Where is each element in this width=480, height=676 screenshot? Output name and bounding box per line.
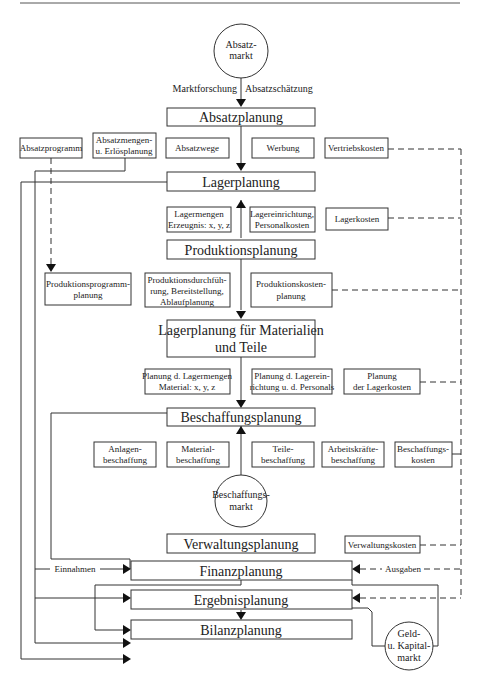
teilebeschaffung-label-line1: Teile- (273, 444, 294, 454)
lagerplanung-label: Lagerplanung (202, 175, 280, 190)
lagereinrichtung-personal-label-line1: Planung d. Lagerein- (254, 371, 330, 381)
box-absatzprogramm: Absatzprogramm (20, 138, 82, 158)
edge-label-absatzschaetzung: Absatzschätzung (245, 83, 313, 94)
box-lagermengen: Lagermengen Erzeugnis: x, y, z (167, 207, 231, 232)
produktionskosten-label-line1: Produktionskosten- (256, 279, 326, 289)
connector-lager-bilanz (21, 182, 167, 659)
box-finanzplanung: Finanzplanung (131, 561, 352, 580)
geldmarkt-label-line2: u. Kapital- (388, 640, 431, 651)
beschaffungskosten-label-line2: kosten (411, 455, 435, 465)
arrow-down-icon (236, 612, 246, 620)
arrow-down-icon (236, 400, 246, 408)
box-lagereinrichtung: Lagereinrichtung, Personalkosten (250, 207, 315, 232)
edge-label-einnahmen: Einnahmen (55, 564, 96, 574)
produktionsdurchfuehrung-label-line2: rung, Bereitstellung, (150, 286, 224, 296)
edge-label-marktforschung: Marktforschung (173, 83, 237, 94)
teilebeschaffung-label-line2: beschaffung (261, 455, 305, 465)
box-produktionskosten: Produktionskosten- planung (251, 273, 332, 307)
box-bilanzplanung: Bilanzplanung (131, 620, 352, 639)
box-werbung: Werbung (252, 138, 314, 158)
anlagenbeschaffung-label-line1: Anlagen- (108, 444, 142, 454)
vertriebskosten-label: Vertriebskosten (328, 143, 384, 153)
box-beschaffungskosten: Beschaffungs- kosten (395, 442, 452, 467)
lagermengen-label-line2: Erzeugnis: x, y, z (168, 220, 230, 230)
lagerkosten-planung-label-line2: der Lagerkosten (353, 382, 412, 392)
verwaltungsplanung-label: Verwaltungsplanung (183, 537, 298, 552)
lagerkosten-label: Lagerkosten (335, 214, 380, 224)
arrow-down-icon (236, 99, 246, 107)
absatzplanung-label: Absatzplanung (199, 110, 283, 125)
arrow-right-icon (123, 654, 131, 664)
arrow-up-icon (236, 200, 246, 208)
box-verwaltungsplanung: Verwaltungsplanung (167, 534, 315, 553)
absatzmengen-label-line1: Absatzmengen- (96, 135, 152, 145)
lagermengen-material-label-line1: Planung d. Lagermengen (142, 371, 233, 381)
box-lagereinrichtung-personal: Planung d. Lagerein- richtung u. d. Pers… (250, 369, 335, 394)
lagerkosten-planung-label-line1: Planung (367, 371, 397, 381)
box-vertriebskosten: Vertriebskosten (325, 138, 388, 158)
box-arbeitskraeftebeschaffung: Arbeitskräfte- beschaffung (322, 442, 384, 467)
bilanzplanung-label: Bilanzplanung (200, 623, 282, 638)
box-produktionsplanung: Produktionsplanung (167, 240, 315, 259)
absatzwege-label: Absatzwege (175, 143, 219, 153)
arrow-right-icon (123, 593, 131, 603)
connector-beschaffung-finanz (51, 413, 167, 569)
werbung-label: Werbung (267, 143, 300, 153)
produktionsprogramm-label-line1: Produktionsprogramm- (46, 279, 130, 289)
beschaffungsplanung-label: Beschaffungsplanung (180, 410, 301, 425)
box-lagerplanung-material: Lagerplanung für Materialien und Teile (158, 320, 324, 357)
box-absatzwege: Absatzwege (166, 138, 229, 158)
lagerplanung-material-label-line2: und Teile (215, 340, 267, 355)
connector-ergebnis-geldmarkt (352, 608, 388, 646)
geldmarkt-label-line1: Geld- (398, 628, 421, 639)
geldmarkt-node: Geld- u. Kapital- markt (385, 622, 433, 670)
arrow-right-icon (123, 638, 131, 648)
edge-label-ausgaben: Ausgaben (385, 564, 421, 574)
box-lagerkosten: Lagerkosten (326, 208, 388, 230)
anlagenbeschaffung-label-line2: beschaffung (103, 455, 147, 465)
beschaffungskosten-label-line1: Beschaffungs- (397, 444, 449, 454)
lagereinrichtung-label-line1: Lagereinrichtung, (250, 209, 314, 219)
box-anlagenbeschaffung: Anlagen- beschaffung (94, 442, 156, 467)
arrow-down-icon (236, 311, 246, 319)
box-verwaltungskosten: Verwaltungskosten (345, 536, 420, 553)
box-produktionsdurchfuehrung: Produktionsdurchfüh- rung, Bereitstellun… (145, 273, 230, 307)
box-absatzplanung: Absatzplanung (167, 108, 315, 126)
arrow-down-icon (236, 163, 246, 171)
planning-flow-diagram: Absatz- markt Beschaffungs- markt Geld- … (0, 0, 480, 676)
lagermengen-material-label-line2: Material: x, y, z (159, 382, 216, 392)
arrow-up-icon (236, 426, 246, 434)
box-lagerplanung: Lagerplanung (167, 172, 315, 191)
lagermengen-label-line1: Lagermengen (174, 209, 224, 219)
absatzprogramm-label: Absatzprogramm (20, 143, 82, 153)
materialbeschaffung-label-line1: Material- (181, 444, 214, 454)
ergebnisplanung-label: Ergebnisplanung (194, 593, 289, 608)
absatzmarkt-label-line2: markt (229, 50, 253, 61)
produktionsdurchfuehrung-label-line1: Produktionsdurchfüh- (148, 275, 227, 285)
verwaltungskosten-label: Verwaltungskosten (348, 540, 417, 550)
beschaffungsmarkt-node: Beschaffungs- markt (212, 475, 270, 527)
arrow-down-icon (46, 264, 56, 272)
arbeitskraeftebeschaffung-label-line2: beschaffung (331, 455, 375, 465)
lagereinrichtung-personal-label-line2: richtung u. d. Personals (250, 382, 335, 392)
absatzmarkt-node: Absatz- markt (214, 24, 268, 78)
box-produktionsprogramm: Produktionsprogramm- planung (45, 273, 131, 305)
produktionsdurchfuehrung-label-line3: Ablaufplanung (160, 297, 214, 307)
box-lagermengen-material: Planung d. Lagermengen Material: x, y, z (142, 369, 233, 394)
box-beschaffungsplanung: Beschaffungsplanung (167, 408, 315, 426)
produktionsprogramm-label-line2: planung (74, 290, 103, 300)
lagereinrichtung-label-line2: Personalkosten (255, 220, 310, 230)
materialbeschaffung-label-line2: beschaffung (176, 455, 220, 465)
box-teilebeschaffung: Teile- beschaffung (252, 442, 314, 467)
arrow-left-icon (352, 564, 360, 574)
box-materialbeschaffung: Material- beschaffung (167, 442, 229, 467)
box-ergebnisplanung: Ergebnisplanung (131, 590, 352, 609)
absatzmarkt-label-line1: Absatz- (225, 39, 256, 50)
box-absatzmengen: Absatzmengen- u. Erlösplanung (93, 133, 156, 158)
produktionsplanung-label: Produktionsplanung (185, 243, 298, 258)
lagerplanung-material-label-line1: Lagerplanung für Materialien (158, 323, 324, 338)
arbeitskraeftebeschaffung-label-line1: Arbeitskräfte- (328, 444, 378, 454)
produktionskosten-label-line2: planung (277, 291, 306, 301)
geldmarkt-label-line3: markt (397, 652, 421, 663)
beschaffungsmarkt-label-line1: Beschaffungs- (212, 489, 270, 500)
